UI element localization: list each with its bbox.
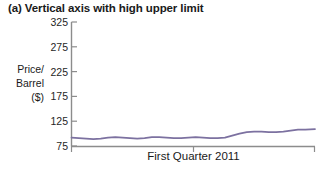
x-axis-label: First Quarter 2011 (71, 150, 316, 162)
chart-figure: (a) Vertical axis with high upper limit … (0, 0, 323, 173)
data-line-crude-oil-price (72, 129, 316, 139)
plot-area (0, 0, 323, 173)
y-axis-ticks (72, 22, 78, 146)
